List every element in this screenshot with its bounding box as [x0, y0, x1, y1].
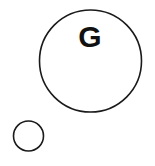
large-circle-label: G [78, 20, 101, 53]
diagram-canvas: G [0, 0, 155, 166]
circles-diagram: G [0, 0, 155, 166]
small-circle-shape[interactable] [14, 121, 44, 151]
